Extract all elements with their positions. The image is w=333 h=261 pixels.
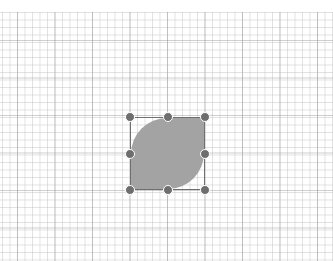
- resize-handle-top-middle[interactable]: [163, 112, 173, 122]
- resize-handle-middle-right[interactable]: [200, 149, 210, 159]
- resize-handle-top-left[interactable]: [125, 112, 135, 122]
- resize-handle-bottom-right[interactable]: [200, 185, 210, 195]
- resize-handle-top-right[interactable]: [200, 112, 210, 122]
- selection-box: [130, 117, 205, 190]
- resize-handle-bottom-middle[interactable]: [163, 185, 173, 195]
- resize-handle-bottom-left[interactable]: [125, 185, 135, 195]
- resize-handle-middle-left[interactable]: [125, 149, 135, 159]
